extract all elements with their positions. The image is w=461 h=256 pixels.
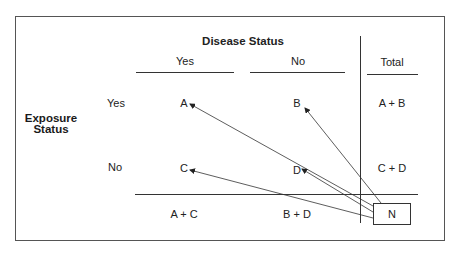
arrow-n-to-b: [305, 108, 381, 203]
grand-total-box: N: [373, 203, 411, 225]
arrow-n-to-d: [302, 169, 373, 212]
arrow-n-to-a: [190, 104, 373, 206]
arrow-n-to-c: [190, 170, 373, 218]
grand-total-label: N: [388, 208, 396, 220]
